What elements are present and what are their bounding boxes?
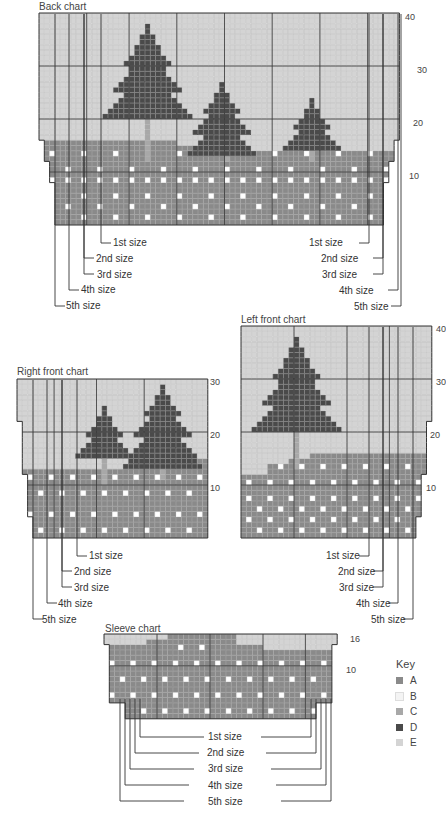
back-left-size-1: 1st size (113, 237, 147, 248)
left-front-size-5: 5th size (371, 614, 405, 625)
key-item-d: D (396, 720, 417, 736)
right-front-size-5: 5th size (42, 614, 76, 625)
sleeve-row-label-16: 16 (350, 634, 360, 644)
back-chart-grid (39, 13, 399, 225)
right-front-row-label-10: 10 (210, 483, 220, 493)
left-front-row-label-30: 30 (436, 377, 446, 387)
back-left-size-2: 2nd size (96, 253, 133, 264)
right-front-chart-title: Right front chart (17, 366, 88, 377)
swatch-a-icon (396, 677, 403, 684)
left-front-row-label-20: 20 (430, 430, 440, 440)
left-front-size-2: 2nd size (338, 566, 375, 577)
swatch-b-icon (396, 693, 403, 700)
sleeve-chart-grid (104, 634, 337, 719)
right-front-row-label-30: 30 (210, 377, 220, 387)
left-front-size-1: 1st size (326, 550, 360, 561)
back-row-label-10: 10 (409, 171, 419, 181)
back-right-size-5: 5th size (354, 301, 388, 312)
back-left-size-4: 4th size (81, 284, 115, 295)
back-row-label-30: 30 (417, 65, 427, 75)
sleeve-size-5: 5th size (208, 796, 242, 807)
key-item-b: B (396, 689, 417, 705)
key-label-c: C (410, 706, 417, 717)
left-front-row-label-40: 40 (436, 324, 446, 334)
back-right-size-2: 2nd size (321, 253, 358, 264)
right-front-size-4: 4th size (58, 598, 92, 609)
key-label-d: D (410, 722, 417, 733)
left-front-chart-title: Left front chart (241, 314, 305, 325)
right-front-size-3: 3rd size (74, 582, 109, 593)
back-left-size-3: 3rd size (97, 269, 132, 280)
back-chart-title: Back chart (39, 1, 86, 12)
swatch-e-icon (396, 739, 403, 746)
right-front-chart-grid (17, 379, 208, 538)
back-left-size-5: 5th size (66, 300, 100, 311)
key-item-c: C (396, 704, 417, 720)
left-front-size-4: 4th size (356, 598, 390, 609)
left-front-chart-grid (241, 326, 432, 538)
back-row-label-40: 40 (405, 12, 415, 22)
back-right-size-4: 4th size (339, 285, 373, 296)
back-right-size-3: 3rd size (322, 269, 357, 280)
swatch-c-icon (396, 708, 403, 715)
color-key: Key A B C D E (396, 658, 417, 751)
key-label-b: B (410, 691, 417, 702)
sleeve-size-1: 1st size (208, 731, 242, 742)
right-front-size-2: 2nd size (74, 566, 111, 577)
key-title: Key (396, 658, 417, 670)
sleeve-size-4: 4th size (208, 780, 242, 791)
key-label-a: A (410, 675, 417, 686)
swatch-d-icon (396, 724, 403, 731)
key-item-a: A (396, 673, 417, 689)
sleeve-size-2: 2nd size (207, 747, 244, 758)
left-front-row-label-10: 10 (426, 483, 436, 493)
right-front-size-1: 1st size (89, 550, 123, 561)
left-front-size-3: 3rd size (339, 582, 374, 593)
right-front-row-label-20: 20 (210, 430, 220, 440)
back-row-label-20: 20 (413, 118, 423, 128)
sleeve-chart-title: Sleeve chart (105, 623, 161, 634)
charts-canvas (0, 0, 446, 814)
sleeve-row-label-10: 10 (346, 665, 356, 675)
sleeve-size-3: 3rd size (208, 763, 243, 774)
key-item-e: E (396, 735, 417, 751)
key-label-e: E (410, 737, 417, 748)
back-right-size-1: 1st size (309, 237, 343, 248)
